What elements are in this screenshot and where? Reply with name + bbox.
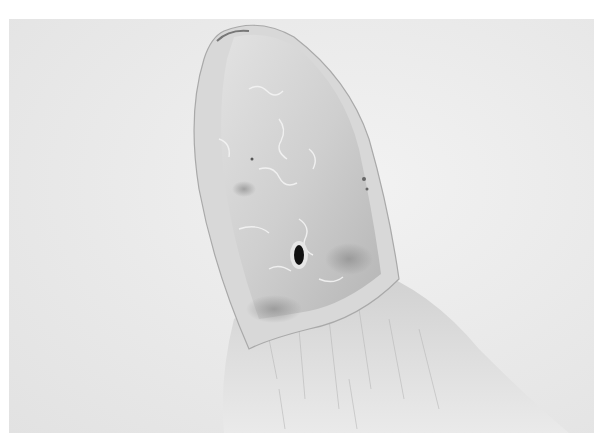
photo: [9, 19, 594, 433]
bird-beak-illustration: [9, 19, 594, 433]
